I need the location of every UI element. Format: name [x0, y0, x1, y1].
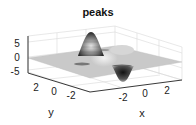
y-axis-label: y [48, 106, 54, 118]
y-tick-label: -2 [67, 90, 76, 101]
z-tick-label: -5 [11, 66, 20, 77]
x-tick-label: 2 [164, 85, 170, 96]
surface-bump [110, 45, 134, 55]
x-tick-label: 0 [142, 88, 148, 99]
x-axis-label: x [139, 107, 145, 119]
x-tick-label: -2 [119, 92, 128, 103]
z-tick-label: 5 [14, 38, 20, 49]
y-tick-label: 2 [33, 82, 39, 93]
z-tick-label: 0 [14, 52, 20, 63]
surface-plot: 5 0 -5 2 0 -2 -2 0 2 y x [0, 0, 196, 125]
y-tick-label: 0 [51, 86, 57, 97]
surface-trough [112, 66, 134, 82]
surface-dip [74, 63, 90, 66]
